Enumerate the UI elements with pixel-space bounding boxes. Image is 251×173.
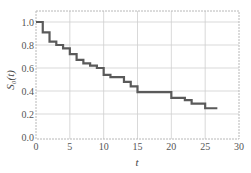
gridlines (36, 11, 239, 139)
x-tick-label: 10 (99, 141, 109, 152)
x-tick-label: 5 (67, 141, 72, 152)
y-tick-label: 0.6 (22, 63, 35, 74)
x-tick-label: 30 (234, 141, 244, 152)
x-axis-ticks: 051015202530 (34, 141, 245, 152)
y-tick-label: 0.0 (22, 132, 35, 143)
x-tick-label: 0 (34, 141, 39, 152)
x-tick-label: 15 (133, 141, 143, 152)
y-tick-label: 0.2 (22, 109, 35, 120)
y-axis-label: S₀(t) (4, 70, 17, 90)
y-tick-label: 0.8 (22, 40, 35, 51)
x-tick-label: 20 (166, 141, 176, 152)
survival-curve (36, 22, 217, 108)
x-axis-label: t (135, 156, 139, 168)
y-axis-ticks: 0.00.20.40.60.81.0 (22, 17, 35, 143)
y-tick-label: 0.4 (22, 86, 35, 97)
survival-step-chart: 051015202530 0.00.20.40.60.81.0 t S₀(t) (0, 0, 251, 173)
y-tick-label: 1.0 (22, 17, 35, 28)
x-tick-label: 25 (200, 141, 210, 152)
